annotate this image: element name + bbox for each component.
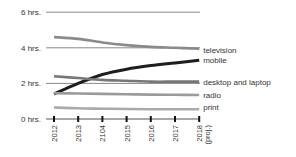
- y-tick-label: 6 hrs.: [21, 8, 41, 17]
- x-tick-mark: [174, 116, 176, 122]
- x-tick-label: 2012: [50, 125, 59, 142]
- legend-label-radio: radio: [203, 91, 221, 100]
- x-tick-label: (proj.): [203, 125, 212, 145]
- y-tick-label: 2 hrs.: [21, 79, 41, 88]
- legend-label-mobile: mobile: [203, 56, 227, 65]
- legend: televisionmobiledesktop and laptopradiop…: [203, 46, 271, 113]
- series-line-print: [54, 107, 199, 109]
- line-chart: 0 hrs.2 hrs.4 hrs.6 hrs. 201220132104201…: [0, 0, 296, 157]
- x-tick-label: 2104: [98, 125, 107, 142]
- legend-label-desktop-and-laptop: desktop and laptop: [203, 78, 271, 87]
- grid-lines: [46, 12, 200, 119]
- x-tick-label: 2016: [147, 125, 156, 142]
- series-line-desktop-and-laptop: [54, 76, 199, 81]
- y-tick-label: 0 hrs.: [21, 115, 41, 124]
- x-tick-mark: [150, 116, 152, 122]
- y-tick-label: 4 hrs.: [21, 44, 41, 53]
- x-tick-label: 2013: [74, 125, 83, 142]
- y-axis-labels: 0 hrs.2 hrs.4 hrs.6 hrs.: [21, 8, 41, 124]
- x-tick-label: 2017: [171, 125, 180, 142]
- x-tick-mark: [198, 116, 200, 122]
- legend-label-print: print: [203, 103, 219, 112]
- legend-label-television: television: [203, 46, 236, 55]
- x-tick-mark: [77, 116, 79, 122]
- x-tick-mark: [101, 116, 103, 122]
- x-axis: 2012201321042015201620172018(proj.): [50, 116, 212, 145]
- x-tick-mark: [126, 116, 128, 122]
- series-line-television: [54, 37, 199, 49]
- x-tick-mark: [53, 116, 55, 122]
- series-line-radio: [54, 93, 199, 95]
- x-tick-label: 2015: [123, 125, 132, 142]
